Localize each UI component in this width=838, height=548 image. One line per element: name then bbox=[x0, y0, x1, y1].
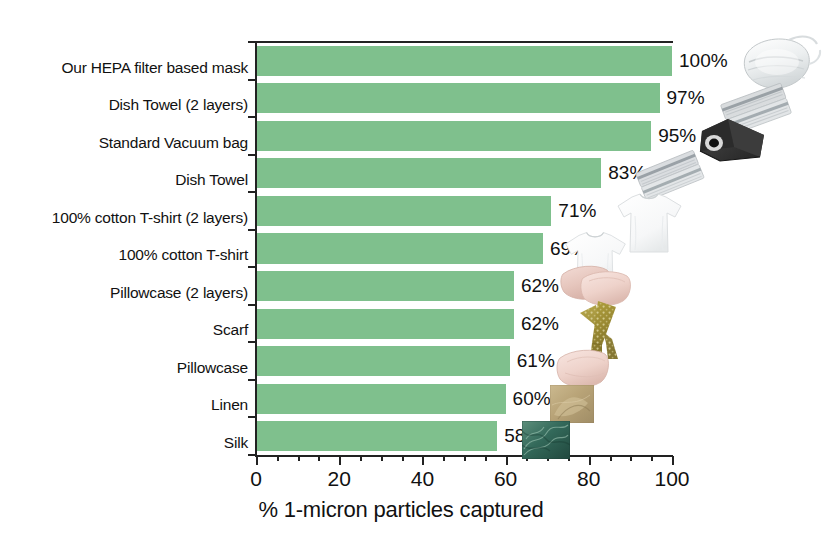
y-axis-tick bbox=[248, 304, 256, 306]
y-axis-tick bbox=[248, 229, 256, 231]
x-axis-tick-label: 60 bbox=[494, 468, 517, 489]
bar-value-label: 95% bbox=[658, 126, 696, 145]
bar-value-label: 97% bbox=[667, 88, 705, 107]
y-axis-label: Dish Towel (2 layers) bbox=[109, 97, 248, 113]
y-axis-label: Standard Vacuum bag bbox=[99, 135, 248, 151]
bar bbox=[256, 121, 651, 151]
x-axis-major-tick bbox=[422, 456, 424, 465]
y-axis-tick bbox=[248, 154, 256, 156]
x-axis-tick-label: 40 bbox=[411, 468, 434, 489]
y-axis-label: Scarf bbox=[213, 322, 248, 338]
x-axis-minor-tick bbox=[485, 456, 487, 461]
x-axis-tick-label: 20 bbox=[328, 468, 351, 489]
linen-swatch-thumbnail bbox=[550, 385, 594, 423]
bar-value-label: 61% bbox=[517, 351, 555, 370]
bar-value-label: 100% bbox=[679, 51, 728, 70]
x-axis-minor-tick bbox=[277, 456, 279, 461]
x-axis-minor-tick bbox=[464, 456, 466, 461]
bar bbox=[256, 196, 551, 226]
y-axis-tick bbox=[248, 116, 256, 118]
y-axis-label: Silk bbox=[224, 435, 248, 451]
y-axis-label: Linen bbox=[211, 397, 248, 413]
x-axis-minor-tick bbox=[630, 456, 632, 461]
x-axis-minor-tick bbox=[298, 456, 300, 461]
bar-value-label: 62% bbox=[521, 276, 559, 295]
bar-value-label: 62% bbox=[521, 314, 559, 333]
y-axis-tick bbox=[248, 341, 256, 343]
x-axis-minor-tick bbox=[610, 456, 612, 461]
y-axis-label: 100% cotton T-shirt (2 layers) bbox=[52, 210, 248, 226]
y-axis-label: Pillowcase (2 layers) bbox=[110, 285, 248, 301]
x-axis-minor-tick bbox=[402, 456, 404, 461]
bar bbox=[256, 46, 672, 76]
y-axis-tick bbox=[248, 454, 256, 456]
x-axis-minor-tick bbox=[360, 456, 362, 461]
y-axis-tick bbox=[248, 41, 256, 43]
bar bbox=[256, 346, 510, 376]
bar bbox=[256, 233, 543, 263]
x-axis-tick-label: 100 bbox=[654, 468, 689, 489]
x-axis-minor-tick bbox=[381, 456, 383, 461]
x-axis-minor-tick bbox=[651, 456, 653, 461]
y-axis-tick bbox=[248, 191, 256, 193]
bar-value-label: 71% bbox=[558, 201, 596, 220]
y-axis-tick bbox=[248, 266, 256, 268]
bar bbox=[256, 309, 514, 339]
bar-value-label: 60% bbox=[513, 389, 551, 408]
plot-top-border bbox=[255, 41, 673, 43]
y-axis-label: Dish Towel bbox=[175, 172, 248, 188]
y-axis-label: Our HEPA filter based mask bbox=[61, 60, 248, 76]
x-axis-major-tick bbox=[672, 456, 674, 465]
y-axis-label: Pillowcase bbox=[177, 360, 248, 376]
silk-swatch-thumbnail bbox=[522, 421, 570, 459]
y-axis-tick bbox=[248, 379, 256, 381]
x-axis-major-tick bbox=[339, 456, 341, 465]
bar bbox=[256, 271, 514, 301]
y-axis-tick bbox=[248, 79, 256, 81]
x-axis-tick-label: 0 bbox=[250, 468, 262, 489]
x-axis-minor-tick bbox=[318, 456, 320, 461]
x-axis-tick-label: 80 bbox=[577, 468, 600, 489]
x-axis-title-text: % 1-micron particles captured bbox=[258, 497, 543, 522]
bar bbox=[256, 384, 506, 414]
x-axis-minor-tick bbox=[443, 456, 445, 461]
y-axis-labels: Our HEPA filter based mask Dish Towel (2… bbox=[0, 0, 248, 548]
bar bbox=[256, 83, 660, 113]
bar bbox=[256, 158, 601, 188]
y-axis-tick bbox=[248, 416, 256, 418]
y-axis-line bbox=[255, 41, 257, 456]
x-axis-title: % 1-micron particles captured bbox=[0, 497, 838, 523]
x-axis-major-tick bbox=[589, 456, 591, 465]
y-axis-label: 100% cotton T-shirt bbox=[119, 247, 248, 263]
x-axis-major-tick bbox=[256, 456, 258, 465]
bar-chart: Our HEPA filter based mask Dish Towel (2… bbox=[0, 0, 838, 548]
bar bbox=[256, 421, 497, 451]
x-axis-major-tick bbox=[506, 456, 508, 465]
